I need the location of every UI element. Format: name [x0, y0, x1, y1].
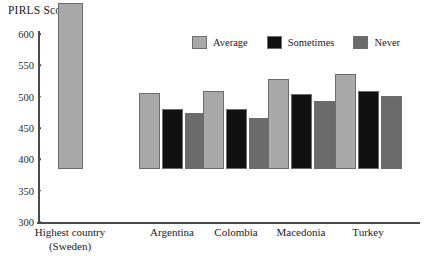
x-axis-line: [37, 222, 420, 224]
bar: [268, 79, 289, 169]
bar: [381, 96, 402, 169]
y-tick-mark: [38, 221, 41, 223]
bar-group: [200, 0, 272, 169]
bar-group: [136, 0, 208, 169]
category-label-line1: Highest country: [35, 226, 106, 238]
y-tick-label: 550: [18, 60, 34, 71]
bar-group: [332, 0, 404, 169]
bar: [139, 93, 160, 169]
x-axis-category-labels: Highest country(Sweden)ArgentinaColombia…: [38, 226, 420, 272]
bar: [226, 109, 247, 169]
bar-group: [34, 0, 106, 169]
bar: [291, 94, 312, 169]
y-tick-mark: [38, 33, 41, 35]
y-tick-mark: [38, 159, 41, 161]
bar-group: [265, 0, 337, 169]
category-label: Macedonia: [277, 226, 326, 240]
y-tick-label: 350: [18, 185, 34, 196]
category-label-line1: Macedonia: [277, 226, 326, 238]
category-label-line1: Colombia: [214, 226, 257, 238]
category-label: Argentina: [150, 226, 194, 240]
category-label: Colombia: [214, 226, 257, 240]
bar: [58, 3, 83, 169]
bar: [203, 91, 224, 169]
bar: [162, 109, 183, 169]
bar: [358, 91, 379, 169]
pirls-bar-chart: PIRLS Scores 600550500450400350300 Avera…: [0, 0, 424, 275]
category-label: Turkey: [352, 226, 383, 240]
y-axis-tick-labels: 600550500450400350300: [0, 0, 34, 275]
bar: [335, 74, 356, 169]
y-tick-label: 400: [18, 154, 34, 165]
y-tick-label: 500: [18, 91, 34, 102]
y-tick-label: 300: [18, 217, 34, 228]
category-label-line2: (Sweden): [35, 240, 106, 254]
category-label-line1: Argentina: [150, 226, 194, 238]
category-label-line1: Turkey: [352, 226, 383, 238]
y-tick-mark: [38, 65, 41, 67]
y-tick-label: 450: [18, 123, 34, 134]
y-tick-label: 600: [18, 29, 34, 40]
y-tick-mark: [38, 190, 41, 192]
y-tick-mark: [38, 96, 41, 98]
bar-groups: [38, 0, 420, 222]
category-label: Highest country(Sweden): [35, 226, 106, 253]
y-tick-mark: [38, 127, 41, 129]
